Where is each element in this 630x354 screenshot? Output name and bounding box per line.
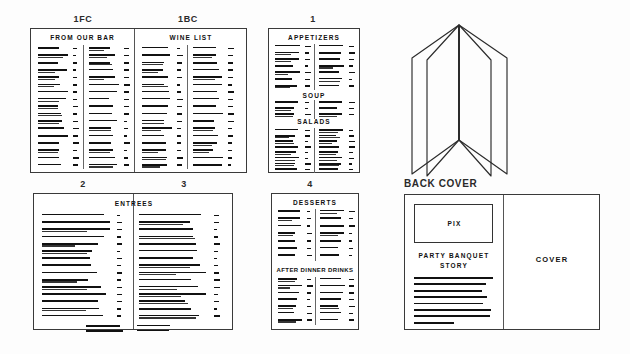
menu-entry-line (38, 135, 68, 137)
menu-entry-line (89, 84, 119, 85)
menu-entry-line (38, 105, 58, 106)
menu-entry-subline (275, 116, 293, 117)
menu-entry-line (38, 127, 64, 128)
menu-entry-line (320, 240, 341, 242)
menu-entry-line (137, 325, 170, 326)
menu-entry-line (42, 315, 103, 316)
menu-entry-line (142, 62, 164, 63)
menu-price-tick (349, 279, 354, 281)
menu-entry-line (142, 105, 168, 106)
menu-entry-subline (275, 74, 288, 75)
heading-salads: SALADS (269, 118, 359, 125)
menu-entry-subline (275, 137, 289, 138)
heading-wine-list: WINE LIST (134, 34, 248, 41)
sheet-1: APPETIZERS SOUP SALADS (268, 28, 360, 173)
menu-price-tick (228, 135, 233, 137)
menu-price-tick (305, 52, 309, 54)
menu-entry-subline (89, 79, 104, 80)
menu-price-tick (228, 142, 232, 144)
menu-entry-line (89, 142, 111, 144)
menu-entry-line (38, 98, 66, 99)
menu-price-tick (307, 313, 312, 315)
menu-entry-subline (275, 154, 291, 155)
menu-entry-line (89, 113, 112, 114)
menu-price-tick (228, 128, 232, 130)
menu-price-tick (349, 240, 352, 242)
menu-entry-line (275, 45, 300, 46)
menu-price-tick (228, 157, 232, 159)
menu-entry-subline (89, 130, 111, 131)
menu-entry-line (320, 278, 341, 279)
menu-price-tick (73, 157, 79, 159)
menu-price-tick (349, 152, 353, 154)
menu-price-tick (349, 299, 354, 301)
menu-price-tick (124, 69, 129, 71)
menu-entry-line (275, 58, 299, 59)
menu-price-tick (307, 211, 310, 213)
menu-price-tick (349, 59, 354, 61)
menu-entry-line (38, 84, 60, 85)
menu-entry-line (89, 120, 117, 121)
menu-entry-subline (139, 289, 177, 290)
menu-entry-line (320, 210, 344, 211)
menu-price-tick (73, 128, 79, 130)
menu-price-tick (177, 91, 181, 93)
menu-entry-subline (139, 267, 190, 268)
menu-entry-line (319, 168, 338, 170)
label-back-cover: BACK COVER (404, 178, 499, 189)
menu-entry-line (193, 157, 223, 158)
menu-price-tick (349, 285, 354, 287)
menu-entry-line (89, 98, 109, 99)
menu-entry-line (142, 47, 168, 48)
menu-price-tick (117, 215, 120, 217)
menu-price-tick (349, 306, 355, 308)
menu-entry-line (193, 76, 222, 77)
menu-entry-subline (89, 152, 110, 153)
menu-price-tick (177, 121, 182, 123)
menu-entry-line (139, 264, 200, 265)
menu-price-tick (305, 65, 308, 67)
menu-price-tick (117, 287, 122, 289)
menu-entry-line (139, 286, 198, 287)
menu-price-tick (307, 255, 312, 257)
menu-entry-line (320, 312, 341, 313)
menu-price-tick (305, 85, 310, 87)
menu-entry-line (319, 113, 342, 114)
menu-price-tick (117, 308, 121, 310)
menu-entry-subline (142, 123, 164, 124)
menu-price-tick (117, 243, 122, 245)
menu-entry-subline (275, 165, 294, 166)
label-4: 4 (290, 179, 330, 189)
menu-entry-subline (278, 235, 293, 236)
menu-price-tick (305, 108, 308, 110)
menu-price-tick (305, 146, 311, 148)
menu-price-tick (228, 77, 233, 79)
menu-price-tick (349, 141, 355, 143)
menu-entry-line (89, 127, 111, 128)
menu-price-tick (228, 106, 233, 108)
menu-entry-line (320, 298, 341, 299)
column-divider (314, 128, 315, 173)
menu-price-tick (305, 79, 310, 81)
menu-entry-subline (278, 281, 295, 282)
menu-entry-line (193, 105, 216, 107)
menu-entry-subline (275, 87, 290, 88)
menu-price-tick (349, 163, 352, 165)
menu-entry-line (89, 105, 113, 106)
menu-entry-subline (38, 108, 58, 109)
menu-entry-line (320, 292, 343, 293)
menu-price-tick (117, 229, 122, 231)
menu-entry-line (319, 52, 341, 54)
menu-entry-line (319, 151, 338, 152)
menu-entry-line (89, 76, 115, 77)
menu-entry-line (275, 157, 299, 158)
menu-entry-line (320, 305, 338, 306)
menu-entry-line (89, 69, 113, 70)
sheet-1fc-1bc: FROM OUR BAR WINE LIST (30, 28, 247, 173)
menu-entry-line (193, 62, 217, 64)
menu-entry-line (42, 236, 104, 237)
menu-price-tick (349, 146, 355, 148)
menu-entry-subline (193, 145, 212, 146)
menu-price-tick (117, 265, 121, 267)
menu-price-tick (349, 46, 354, 48)
